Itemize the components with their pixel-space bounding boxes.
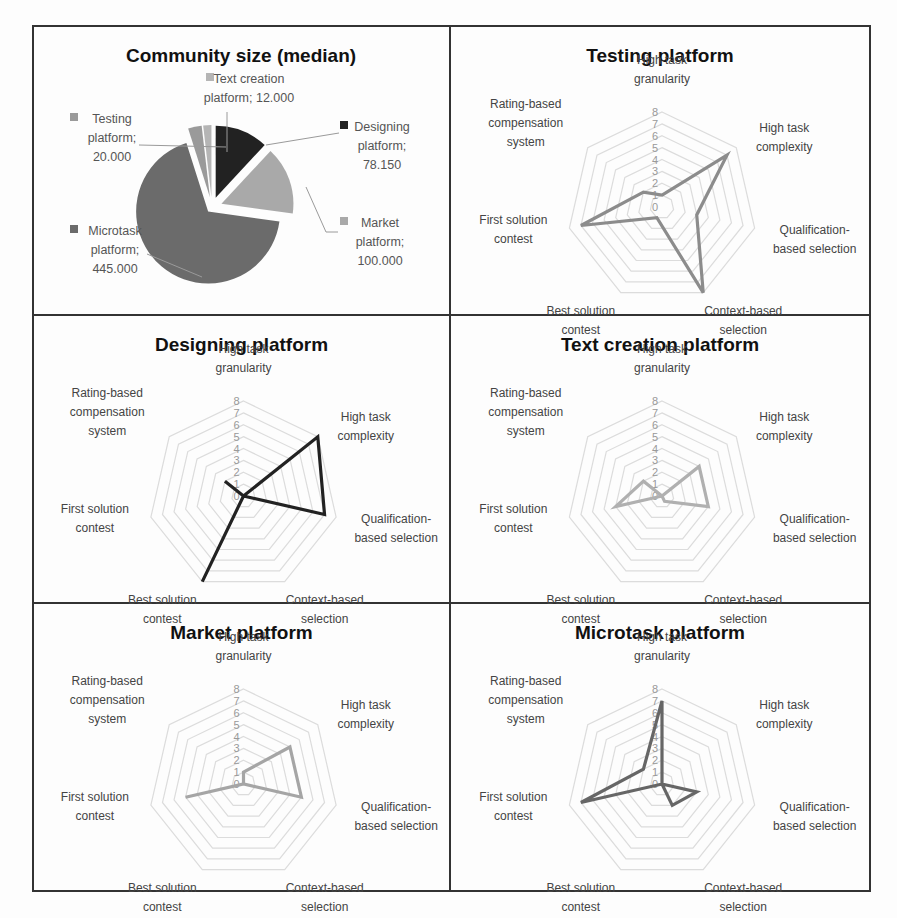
svg-text:8: 8 [652, 683, 658, 695]
axis-label-first-solution-contest: First solutioncontest [479, 790, 547, 823]
svg-text:First solution: First solution [61, 502, 129, 516]
svg-text:contest: contest [561, 900, 600, 914]
svg-text:granularity: granularity [634, 649, 690, 663]
legend-swatch [70, 225, 78, 233]
svg-text:6: 6 [233, 419, 239, 431]
svg-text:First solution: First solution [479, 502, 547, 516]
radar-tick-labels: 012345678 [233, 683, 239, 790]
pie-label-line: Text creation [214, 72, 285, 86]
svg-text:complexity: complexity [756, 717, 813, 731]
svg-text:7: 7 [652, 695, 658, 707]
legend-swatch [70, 113, 78, 121]
axis-label-rating-based-compensation-system: Rating-basedcompensationsystem [70, 674, 145, 726]
svg-text:8: 8 [652, 106, 658, 118]
axis-label-high-task-complexity: High taskcomplexity [337, 410, 394, 443]
svg-text:2: 2 [233, 754, 239, 766]
svg-text:5: 5 [652, 431, 658, 443]
axis-label-first-solution-contest: First solutioncontest [61, 502, 129, 535]
axis-label-rating-based-compensation-system: Rating-basedcompensationsystem [488, 386, 563, 438]
svg-text:5: 5 [652, 142, 658, 154]
svg-text:granularity: granularity [634, 72, 690, 86]
svg-text:granularity: granularity [215, 649, 271, 663]
axis-label-first-solution-contest: First solutioncontest [61, 790, 129, 823]
axis-label-qualification-based-selection: Qualification-based selection [354, 800, 437, 833]
pie-label-line: 445.000 [92, 262, 137, 276]
svg-text:Context-based: Context-based [286, 881, 364, 895]
svg-text:2: 2 [652, 466, 658, 478]
pie-label-market-platform: Marketplatform;100.000 [306, 187, 404, 268]
axis-label-qualification-based-selection: Qualification-based selection [773, 223, 856, 256]
svg-text:complexity: complexity [756, 140, 813, 154]
svg-text:First solution: First solution [479, 790, 547, 804]
text-creation-platform-radar-chart: Text creation platform012345678High task… [451, 316, 869, 602]
axis-label-context-based-selection: Context-basedselection [704, 881, 782, 914]
radar-series-microtask-platform [581, 701, 697, 806]
market-platform-radar-chart: Market platform012345678High taskgranula… [34, 604, 449, 890]
svg-text:8: 8 [652, 395, 658, 407]
legend-swatch [340, 121, 348, 129]
svg-text:contest: contest [76, 521, 115, 535]
svg-text:4: 4 [233, 443, 239, 455]
svg-text:Best solution: Best solution [128, 881, 197, 895]
svg-text:granularity: granularity [215, 361, 271, 375]
svg-text:Qualification-: Qualification- [780, 223, 850, 237]
svg-text:7: 7 [233, 695, 239, 707]
axis-label-qualification-based-selection: Qualification-based selection [773, 800, 856, 833]
svg-text:0: 0 [652, 201, 658, 213]
svg-text:8: 8 [233, 395, 239, 407]
svg-text:6: 6 [652, 419, 658, 431]
leader-line [306, 187, 338, 232]
svg-text:5: 5 [233, 719, 239, 731]
svg-text:compensation: compensation [70, 693, 145, 707]
svg-text:Qualification-: Qualification- [780, 512, 850, 526]
svg-text:system: system [507, 135, 545, 149]
axis-label-high-task-granularity: High taskgranularity [215, 342, 271, 375]
svg-text:3: 3 [652, 165, 658, 177]
svg-text:compensation: compensation [488, 405, 563, 419]
svg-text:contest: contest [494, 809, 533, 823]
svg-text:based selection: based selection [354, 531, 437, 545]
svg-text:Qualification-: Qualification- [780, 800, 850, 814]
radar-axis-labels: High taskgranularityHigh taskcomplexityQ… [479, 342, 856, 626]
svg-text:compensation: compensation [70, 405, 145, 419]
legend-swatch [340, 217, 348, 225]
svg-text:Rating-based: Rating-based [490, 97, 561, 111]
pie-label-line: 100.000 [357, 254, 402, 268]
svg-text:contest: contest [143, 900, 182, 914]
svg-text:High task: High task [759, 698, 810, 712]
svg-text:High task: High task [341, 410, 392, 424]
svg-text:complexity: complexity [337, 717, 394, 731]
axis-label-context-based-selection: Context-basedselection [286, 881, 364, 914]
axis-label-best-solution-contest: Best solutioncontest [546, 881, 615, 914]
svg-text:contest: contest [494, 521, 533, 535]
svg-text:First solution: First solution [479, 213, 547, 227]
axis-label-high-task-granularity: High taskgranularity [215, 630, 271, 663]
svg-text:5: 5 [233, 431, 239, 443]
svg-text:High task: High task [637, 630, 688, 644]
svg-text:3: 3 [652, 454, 658, 466]
svg-text:2: 2 [233, 466, 239, 478]
svg-text:4: 4 [652, 154, 658, 166]
svg-text:system: system [88, 424, 126, 438]
svg-text:2: 2 [652, 177, 658, 189]
svg-text:3: 3 [233, 742, 239, 754]
radar-axis-labels: High taskgranularityHigh taskcomplexityQ… [61, 630, 438, 914]
axis-label-rating-based-compensation-system: Rating-basedcompensationsystem [70, 386, 145, 438]
svg-text:Context-based: Context-based [704, 881, 782, 895]
svg-text:system: system [507, 712, 545, 726]
radar-axis-labels: High taskgranularityHigh taskcomplexityQ… [61, 342, 438, 626]
pie-label-line: platform; [358, 139, 407, 153]
pie-label-line: platform; [91, 243, 140, 257]
svg-text:contest: contest [494, 232, 533, 246]
pie-label-designing-platform: Designingplatform;78.150 [266, 120, 410, 172]
svg-text:6: 6 [233, 707, 239, 719]
axis-label-first-solution-contest: First solutioncontest [479, 502, 547, 535]
svg-text:Rating-based: Rating-based [72, 386, 143, 400]
svg-text:High task: High task [759, 410, 810, 424]
svg-text:High task: High task [341, 698, 392, 712]
radar-gridlines [569, 401, 754, 582]
svg-text:Rating-based: Rating-based [490, 386, 561, 400]
svg-text:3: 3 [652, 742, 658, 754]
radar-gridlines [569, 112, 754, 293]
svg-text:Best solution: Best solution [546, 881, 615, 895]
